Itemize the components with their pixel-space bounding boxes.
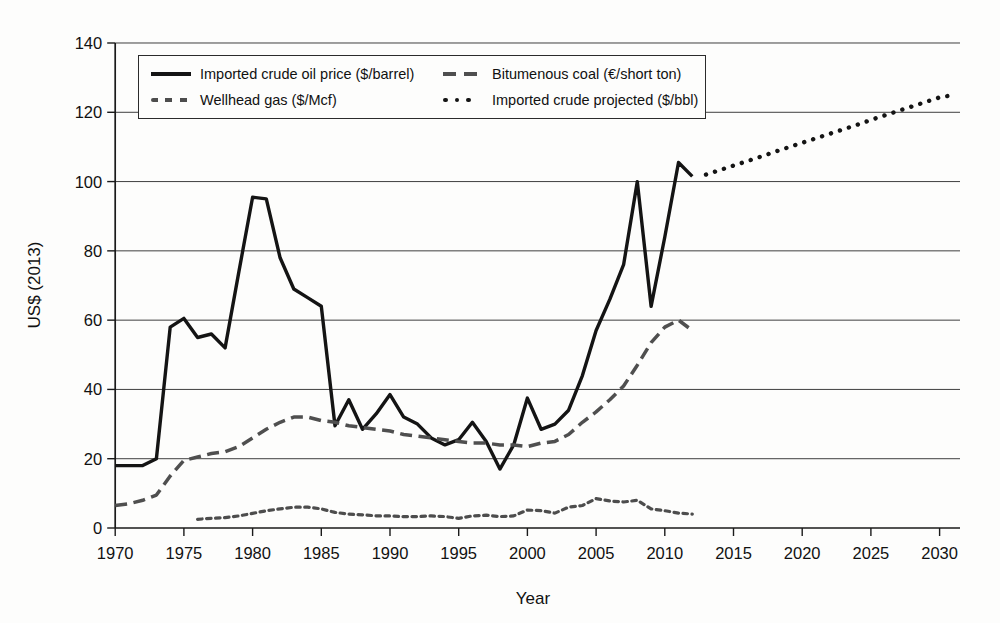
y-tick-label: 120 (75, 103, 103, 121)
x-tick-label: 1990 (372, 544, 409, 562)
legend-item-imported-crude-projected: Imported crude projected ($/bbl) (443, 92, 705, 108)
legend-item-bituminous-coal: Bitumenous coal (€/short ton) (443, 66, 705, 82)
x-tick-label: 2020 (784, 544, 821, 562)
x-tick-label: 1975 (166, 544, 203, 562)
series-line-bituminous-coal (115, 320, 692, 505)
legend: Imported crude oil price ($/barrel) Bitu… (138, 55, 706, 119)
dotted-line-sample-icon (443, 98, 483, 103)
x-tick-label: 1980 (234, 544, 271, 562)
legend-label-wellhead-gas: Wellhead gas ($/Mcf) (200, 92, 337, 108)
y-tick-label: 140 (75, 34, 103, 52)
x-axis-title: Year (516, 589, 551, 608)
legend-label-imported-crude-projected: Imported crude projected ($/bbl) (492, 92, 698, 108)
y-tick-label: 100 (75, 173, 103, 191)
x-tick-label: 1985 (303, 544, 340, 562)
x-tick-label: 2005 (578, 544, 615, 562)
legend-label-bituminous-coal: Bitumenous coal (€/short ton) (492, 66, 681, 82)
x-tick-label: 1995 (440, 544, 477, 562)
series-line-imported-crude-oil (115, 163, 692, 470)
legend-label-imported-crude-oil: Imported crude oil price ($/barrel) (200, 66, 414, 82)
x-tick-label: 2000 (509, 544, 546, 562)
series-line-wellhead-gas (198, 499, 693, 520)
y-tick-label: 20 (84, 450, 102, 468)
series-line-imported-crude-projected (706, 95, 953, 175)
y-axis-title: US$ (2013) (25, 242, 44, 329)
x-tick-label: 2015 (715, 544, 752, 562)
y-tick-label: 0 (93, 519, 102, 537)
x-tick-label: 2010 (646, 544, 683, 562)
y-tick-label: 40 (84, 380, 102, 398)
x-tick-label: 2030 (921, 544, 958, 562)
energy-price-chart-figure: 0204060801001201401970197519801985199019… (0, 0, 1000, 623)
y-tick-label: 60 (84, 311, 102, 329)
legend-item-imported-crude-oil: Imported crude oil price ($/barrel) (151, 66, 443, 82)
short-dash-line-sample-icon (151, 98, 191, 103)
solid-line-sample-icon (151, 72, 191, 77)
x-tick-label: 1970 (97, 544, 134, 562)
long-dash-line-sample-icon (443, 72, 483, 77)
legend-item-wellhead-gas: Wellhead gas ($/Mcf) (151, 92, 443, 108)
y-tick-label: 80 (84, 242, 102, 260)
x-tick-label: 2025 (853, 544, 890, 562)
